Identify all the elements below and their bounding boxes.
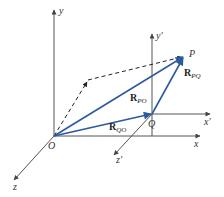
vector-r-qo-label: RQO xyxy=(109,121,126,134)
z-prime-axis-label: z′ xyxy=(115,154,123,165)
x-axis-label: x xyxy=(193,138,199,149)
z-prime-axis xyxy=(114,114,152,155)
y-prime-axis-label: y′ xyxy=(155,30,163,41)
y-axis-label: y xyxy=(58,5,64,16)
point-q-label: Q xyxy=(148,118,156,129)
dashed-side-1 xyxy=(54,82,87,136)
vector-r-qo xyxy=(54,114,151,136)
x-prime-axis-label: x′ xyxy=(203,116,211,127)
point-o-label: O xyxy=(48,140,55,151)
vector-r-po-label: RPO xyxy=(130,92,147,105)
z-axis-label: z xyxy=(12,181,17,192)
dashed-side-2 xyxy=(88,57,182,80)
point-p-label: P xyxy=(188,48,195,59)
vector-r-po xyxy=(54,57,183,136)
vector-r-pq-label: RPQ xyxy=(184,67,201,80)
vector-diagram: y x z y′ x′ z′ O Q P RPO RQO RPQ xyxy=(0,0,224,197)
